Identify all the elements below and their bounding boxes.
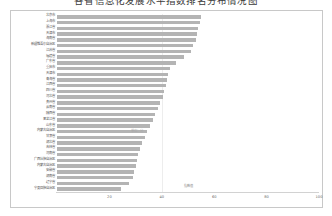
bar <box>57 38 196 42</box>
bar <box>57 15 201 19</box>
chart-frame: 北京市上海市浙江省天津市海南省新疆维吾尔自治区江苏省福建省广东省重庆市天津市青海… <box>10 10 323 208</box>
bar <box>57 176 133 180</box>
bar <box>57 95 163 99</box>
x-tick-label: 80 <box>264 194 269 200</box>
bar-rows: 北京市上海市浙江省天津市海南省新疆维吾尔自治区江苏省福建省广东省重庆市天津市青海… <box>57 14 319 192</box>
x-axis-line <box>56 192 319 193</box>
bar <box>57 159 137 163</box>
bar <box>57 67 170 71</box>
x-tick-label: 60 <box>212 194 217 200</box>
bar <box>57 164 136 168</box>
bar <box>57 113 155 117</box>
bar <box>57 50 191 54</box>
bar <box>57 61 176 65</box>
plot-area: 北京市上海市浙江省天津市海南省新疆维吾尔自治区江苏省福建省广东省重庆市天津市青海… <box>57 14 319 192</box>
bar <box>57 170 134 174</box>
bar <box>57 21 200 25</box>
category-label: 宁夏回族自治区 <box>34 186 55 192</box>
chart-screenshot: 各省信息化发展水平指数排名分布情况图 北京市上海市浙江省天津市海南省新疆维吾尔自… <box>0 0 332 216</box>
x-axis-title: 指数值 <box>57 183 319 188</box>
chart-annotation: 单位：分 <box>131 128 143 133</box>
bar <box>57 73 168 77</box>
bar <box>57 141 142 145</box>
chart-title-clipped-region: 各省信息化发展水平指数排名分布情况图 <box>0 0 332 9</box>
bar <box>57 55 184 59</box>
bar <box>57 107 158 111</box>
bar <box>57 84 166 88</box>
bar <box>57 44 193 48</box>
x-tick-label: 20 <box>107 194 112 200</box>
x-axis: 20406080100 <box>57 192 319 206</box>
chart-title: 各省信息化发展水平指数排名分布情况图 <box>0 0 332 7</box>
bar <box>57 153 138 157</box>
bar <box>57 32 197 36</box>
bar <box>57 118 153 122</box>
x-tick-label: 100 <box>316 194 323 200</box>
bar <box>57 147 140 151</box>
x-tick-label: 40 <box>160 194 165 200</box>
bar <box>57 90 164 94</box>
bar <box>57 136 145 140</box>
bar <box>57 78 167 82</box>
bar <box>57 27 198 31</box>
bar <box>57 101 160 105</box>
